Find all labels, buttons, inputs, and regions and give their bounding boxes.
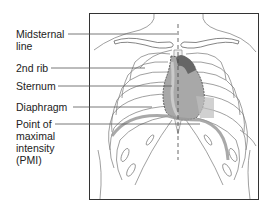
chest-anatomy-illustration <box>0 0 273 211</box>
heart-illustration <box>163 55 214 120</box>
